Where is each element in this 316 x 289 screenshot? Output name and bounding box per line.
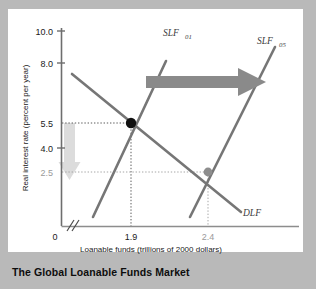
y-tick-label-5-5: 5.5 xyxy=(40,119,53,129)
supply-shift-arrow xyxy=(146,68,266,96)
origin-label: 0 xyxy=(52,232,57,242)
x-tick-label-2-4: 2.4 xyxy=(202,232,215,242)
y-tick-label-2-5: 2.5 xyxy=(40,168,53,178)
x-tick-label-1-9: 1.9 xyxy=(125,232,138,242)
y-tick-label-8: 8.0 xyxy=(40,59,53,69)
curve-dlf xyxy=(72,74,241,212)
axis-break-icon xyxy=(67,220,79,231)
initial-equilibrium-dot xyxy=(126,118,136,128)
curve-label-dlf: DLF xyxy=(242,208,261,218)
guide-lines xyxy=(62,123,208,226)
figure-root: 10.0 8.0 5.5 4.0 2.5 0 1.9 2.4 Loanable … xyxy=(0,0,316,289)
curve-label-slf05: SLF 05 xyxy=(257,36,286,48)
curve-label-slf01-subscript: 01 xyxy=(185,33,192,40)
curve-slf05 xyxy=(190,47,275,217)
x-axis-title: Loanable funds (trillions of 2000 dollar… xyxy=(80,245,222,254)
figure-caption: The Global Loanable Funds Market xyxy=(12,266,190,278)
chart-svg: 10.0 8.0 5.5 4.0 2.5 0 1.9 2.4 Loanable … xyxy=(0,0,316,289)
curve-label-slf01-text: SLF xyxy=(163,28,179,38)
curve-label-slf01: SLF 01 xyxy=(163,28,192,40)
y-tick-label-10: 10.0 xyxy=(35,27,53,37)
new-equilibrium-dot xyxy=(204,168,213,177)
y-tick-label-4: 4.0 xyxy=(40,144,53,154)
curve-label-slf05-subscript: 05 xyxy=(279,41,286,48)
y-axis-title: Real interest rate (percent per year) xyxy=(21,64,30,191)
curve-label-slf05-text: SLF xyxy=(257,36,273,46)
axes xyxy=(57,28,299,231)
